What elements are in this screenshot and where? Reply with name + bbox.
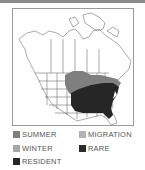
legend-item-rare: RARE <box>79 144 110 153</box>
range-map <box>12 8 134 126</box>
north-america-map <box>13 9 134 126</box>
top-bar <box>0 0 145 3</box>
rare-swatch-icon <box>79 145 86 152</box>
summer-swatch-icon <box>13 131 20 138</box>
legend-item-winter: WINTER <box>13 144 53 153</box>
legend-label: WINTER <box>22 144 53 153</box>
legend-label: RESIDENT <box>22 157 62 166</box>
legend-item-summer: SUMMER <box>13 130 57 139</box>
migration-swatch-icon <box>79 131 86 138</box>
legend-item-migration: MIGRATION <box>79 130 132 139</box>
legend-label: MIGRATION <box>88 130 132 139</box>
legend-label: SUMMER <box>22 130 57 139</box>
winter-swatch-icon <box>13 145 20 152</box>
map-legend: SUMMER MIGRATION WINTER RARE RESIDENT <box>13 130 143 170</box>
resident-swatch-icon <box>13 158 20 165</box>
legend-label: RARE <box>88 144 110 153</box>
legend-item-resident: RESIDENT <box>13 157 62 166</box>
